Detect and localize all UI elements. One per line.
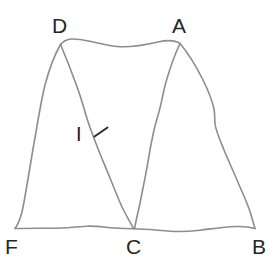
edge-DA [61, 39, 181, 47]
vertex-label-D: D [52, 15, 67, 36]
vertex-label-C: C [126, 236, 141, 257]
segment-label-I: I [76, 124, 82, 144]
geometry-figure: D A F C B I [0, 0, 279, 269]
edge-DF [15, 45, 61, 229]
edge-AB [180, 44, 255, 229]
vertex-label-F: F [5, 236, 18, 257]
vertex-label-A: A [172, 15, 186, 36]
figure-canvas [0, 0, 279, 269]
tick-on-DC [95, 128, 108, 137]
edge-AC [135, 44, 181, 229]
vertex-label-B: B [252, 236, 266, 257]
edge-DC [61, 45, 134, 229]
